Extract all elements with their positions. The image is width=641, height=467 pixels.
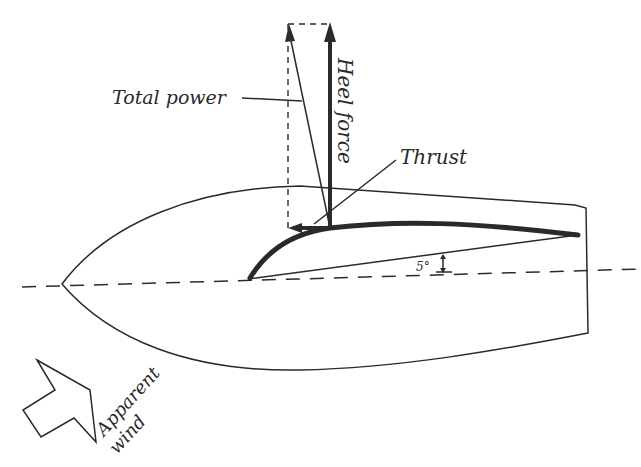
thrust-label: Thrust bbox=[400, 145, 468, 169]
apparent-wind-icon bbox=[23, 360, 96, 442]
angle-marker bbox=[436, 254, 452, 273]
hull-outline bbox=[62, 186, 588, 370]
total-power-arrowhead bbox=[285, 24, 295, 42]
centerline bbox=[22, 269, 641, 287]
angle-label: 5° bbox=[416, 260, 430, 274]
heel-force-label: Heel force bbox=[333, 57, 357, 164]
total-power-arrow bbox=[290, 36, 330, 228]
total-power-leader bbox=[242, 98, 302, 101]
heel-force-arrowhead bbox=[324, 22, 336, 42]
thrust-arrowhead bbox=[288, 223, 302, 233]
total-power-label: Total power bbox=[112, 86, 228, 108]
sail-force-diagram: 5° Total power Thrust Heel force Apparen… bbox=[0, 0, 641, 467]
